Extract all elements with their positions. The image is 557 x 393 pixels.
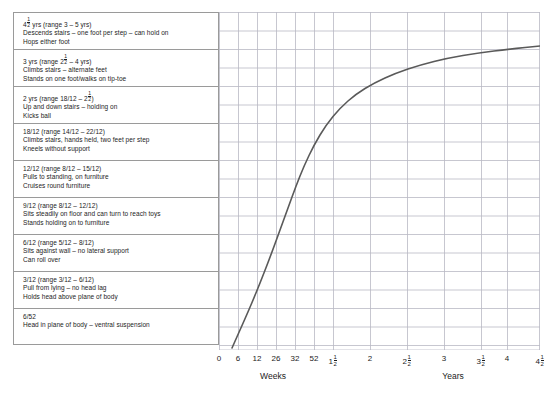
x-axis-tick-label: 4 [492, 353, 522, 364]
milestone-age-label: 6/12 (range 5/12 – 8/12) [23, 239, 218, 247]
milestone-row: 6/52Head in plane of body – ventral susp… [14, 309, 218, 346]
x-axis-label-weeks: Weeks [243, 371, 303, 381]
x-axis-label-years: Years [423, 371, 483, 381]
fraction-glyph: 12 [541, 354, 544, 367]
grid-lines [219, 12, 540, 350]
x-axis-tick-label: 3 [429, 353, 459, 364]
fraction-glyph: 12 [482, 354, 485, 367]
milestone-row: 6/12 (range 5/12 – 8/12)Sits against wal… [14, 235, 218, 272]
milestone-age-label: 3/12 (range 3/12 – 6/12) [23, 276, 218, 284]
milestone-description-1: Up and down stairs – holding on [23, 103, 218, 111]
fraction-glyph: 12 [408, 354, 411, 367]
fraction-glyph: 12 [88, 91, 91, 102]
milestone-age-label: 3 yrs (range 212 – 4 yrs) [23, 54, 218, 66]
fraction-glyph: 12 [64, 54, 67, 65]
milestone-description-1: Sits against wall – no lateral support [23, 247, 218, 255]
milestone-age-label: 9/12 (range 8/12 – 12/12) [23, 202, 218, 210]
plot-area [219, 12, 540, 350]
milestone-description-1: Climbs stairs, hands held, two feet per … [23, 136, 218, 144]
milestone-age-label: 12/12 (range 8/12 – 15/12) [23, 165, 218, 173]
milestone-panel: 412 yrs (range 3 – 5 yrs)Descends stairs… [13, 12, 219, 345]
milestone-age-label: 18/12 (range 14/12 – 22/12) [23, 128, 218, 136]
milestone-description-1: Climbs stairs – alternate feet [23, 66, 218, 74]
milestone-age-label: 412 yrs (range 3 – 5 yrs) [23, 17, 218, 29]
chart-root: 412 yrs (range 3 – 5 yrs)Descends stairs… [0, 0, 557, 393]
milestone-row: 18/12 (range 14/12 – 22/12)Climbs stairs… [14, 124, 218, 161]
milestone-row: 2 yrs (range 18/12 – 212)Up and down sta… [14, 87, 218, 124]
milestone-row: 12/12 (range 8/12 – 15/12)Pulls to stand… [14, 161, 218, 198]
milestone-description-2: Hops either foot [23, 38, 218, 46]
milestone-description-1: Pulls to standing, on furniture [23, 173, 218, 181]
milestone-description-2: Can roll over [23, 256, 218, 264]
milestone-row: 9/12 (range 8/12 – 12/12)Sits steadily o… [14, 198, 218, 235]
milestone-row: 3/12 (range 3/12 – 6/12)Pull from lying … [14, 272, 218, 309]
x-axis-tick-label: 112 [318, 353, 348, 367]
fraction-glyph: 12 [334, 354, 337, 367]
milestone-description-2: Cruises round furniture [23, 182, 218, 190]
x-axis-tick-label: 2 [355, 353, 385, 364]
x-axis-tick-label: 212 [392, 353, 422, 367]
milestone-age-label: 2 yrs (range 18/12 – 212) [23, 91, 218, 103]
milestone-description-1: Head in plane of body – ventral suspensi… [23, 321, 218, 329]
milestone-description-1: Pull from lying – no head lag [23, 284, 218, 292]
development-curve-line [232, 46, 540, 348]
milestone-description-1: Sits steadily on floor and can turn to r… [23, 210, 218, 218]
milestone-description-2: Stands holding on to furniture [23, 219, 218, 227]
x-axis-tick-label: 412 [525, 353, 555, 367]
milestone-row: 3 yrs (range 212 – 4 yrs)Climbs stairs –… [14, 50, 218, 87]
milestone-description-2: Holds head above plane of body [23, 293, 218, 301]
milestone-age-label: 6/52 [23, 313, 218, 321]
development-curve-svg [219, 12, 540, 350]
milestone-description-2: Stands on one foot/walks on tip-toe [23, 75, 218, 83]
milestone-description-2: Kicks ball [23, 112, 218, 120]
milestone-description-2: Kneels without support [23, 145, 218, 153]
milestone-row: 412 yrs (range 3 – 5 yrs)Descends stairs… [14, 13, 218, 50]
fraction-glyph: 12 [27, 17, 30, 28]
milestone-description-1: Descends stairs – one foot per step – ca… [23, 29, 218, 37]
